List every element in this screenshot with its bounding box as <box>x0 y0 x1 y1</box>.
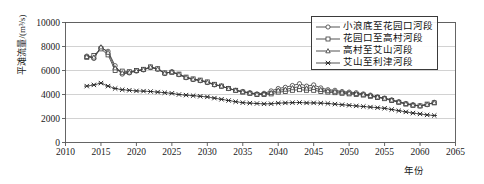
chart-container: 平滩流量/(m³/s) 1000080006000400020000 20102… <box>0 0 484 184</box>
circle-marker-icon <box>315 19 341 31</box>
square-marker-icon <box>315 31 341 43</box>
legend-item-4[interactable]: 艾山至利津河段 <box>315 55 433 67</box>
chart-legend: 小浪底至花园口河段花园口至高村河段高村至艾山河段艾山至利津河段 <box>311 16 438 70</box>
triangle-marker-icon <box>315 43 341 55</box>
legend-label: 艾山至利津河段 <box>341 54 413 68</box>
cross-marker-icon <box>315 55 341 67</box>
